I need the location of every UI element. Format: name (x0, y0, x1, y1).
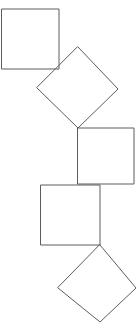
square-top-left (2, 9, 59, 69)
shape-chain-drawing (0, 0, 138, 327)
diamond-upper (37, 47, 118, 128)
square-middle-right (78, 128, 134, 184)
figure-canvas (0, 0, 138, 327)
diamond-lower (58, 245, 136, 322)
square-middle-left (41, 185, 100, 245)
